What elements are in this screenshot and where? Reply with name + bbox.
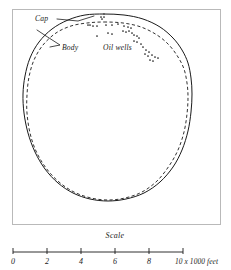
scale-tick-label-2: 2 xyxy=(45,257,49,266)
scale-tick-label-6: 6 xyxy=(113,257,117,266)
oil-field-map-figure: CapBodyOil wells Scale0246810 x 1000 fee… xyxy=(0,0,231,270)
scale-bar-canvas: Scale0246810 x 1000 feet xyxy=(0,0,231,270)
scale-tick-label-8: 8 xyxy=(147,257,151,266)
scale-title: Scale xyxy=(106,231,125,240)
scale-tick-label-4: 4 xyxy=(79,257,83,266)
scale-unit-label: 10 x 1000 feet xyxy=(175,257,219,266)
scale-tick-label-0: 0 xyxy=(11,257,15,266)
